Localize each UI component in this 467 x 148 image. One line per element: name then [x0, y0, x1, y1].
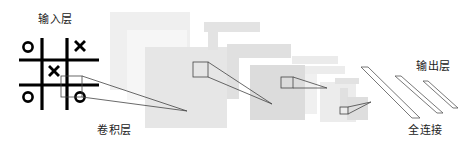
conv-layer-label: 卷积层 [97, 121, 132, 137]
fully-connected-label: 全连接 [408, 121, 443, 137]
output-layer-label: 输出层 [416, 57, 451, 73]
tic-tac-toe-board [18, 36, 100, 111]
receptive-field-conv3 [340, 102, 371, 114]
receptive-field-conv2 [281, 77, 327, 88]
cnn-architecture-diagram: 输入层 卷积层 输出层 全连接 [0, 0, 467, 148]
input-layer-label: 输入层 [38, 10, 73, 26]
receptive-field-conv1 [193, 62, 272, 104]
fully-connected-layer-1 [361, 67, 420, 118]
